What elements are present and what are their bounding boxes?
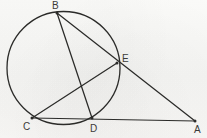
vertex-dot-e [116,62,119,65]
secant-c-d-a [32,118,195,121]
geometry-figure: BECDA [0,0,207,138]
segment-group [32,13,195,121]
vertex-dot-c [31,117,34,120]
vertex-label-a: A [194,125,201,135]
vertex-label-c: C [23,122,30,132]
secant-b-e-a [57,13,195,121]
main-circle [7,12,120,125]
vertex-label-e: E [122,54,129,64]
geometry-canvas [0,0,207,138]
vertex-dot-a [194,120,197,123]
vertex-label-d: D [90,124,97,134]
vertex-dot-d [91,117,94,120]
vertex-dot-group [31,12,197,123]
chord-c-e [32,63,117,118]
vertex-dot-b [56,12,59,15]
chord-b-d [57,13,92,118]
vertex-label-b: B [52,1,59,11]
